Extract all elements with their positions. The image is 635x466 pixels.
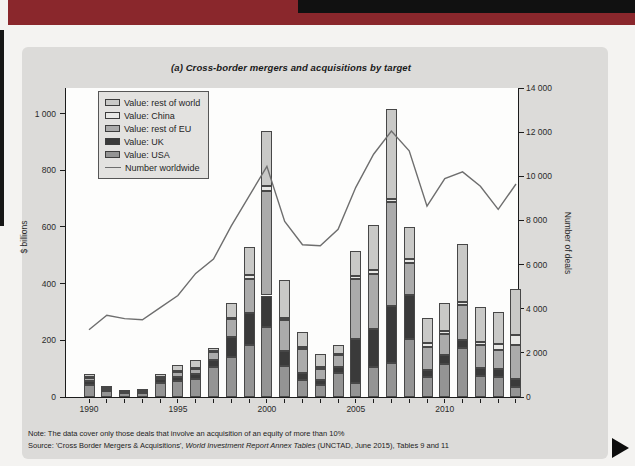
source-italic-title: World Investment Report Annex Tables: [186, 441, 316, 450]
x-axis-year-label: 2005: [341, 404, 371, 414]
x-axis-tick: [142, 399, 143, 403]
legend-label: Value: China: [124, 111, 175, 121]
legend-swatch-value-rest-of-world: [105, 99, 120, 106]
x-axis-year-label: 1990: [74, 404, 104, 414]
source-suffix: (UNCTAD, June 2015), Tables 9 and 11: [315, 441, 448, 450]
legend-label: Value: UK: [124, 137, 164, 147]
x-axis-year-label: 2000: [252, 404, 282, 414]
x-axis-tick: [284, 399, 285, 403]
x-axis-tick: [480, 399, 481, 403]
left-axis-tick-label: 1 000: [18, 109, 56, 119]
right-axis-tick-label: 12 000: [526, 127, 552, 137]
left-axis-tick-label: 800: [18, 165, 56, 175]
legend-label: Value: USA: [124, 150, 170, 160]
left-axis-tick-label: 400: [18, 279, 56, 289]
scanned-book-page: (a) Cross-border mergers and acquisition…: [0, 0, 635, 466]
legend-label: Number worldwide: [125, 163, 200, 173]
left-axis-tick-label: 0: [18, 392, 56, 402]
x-axis-year-label: 1995: [163, 404, 193, 414]
x-axis-tick: [302, 399, 303, 403]
right-axis-tick: [519, 88, 524, 89]
x-axis-tick: [249, 399, 250, 403]
x-axis-tick: [160, 399, 161, 403]
figure-title: (a) Cross-border mergers and acquisition…: [65, 62, 517, 73]
right-axis-tick-label: 0: [526, 392, 531, 402]
right-axis-tick-label: 4 000: [526, 304, 547, 314]
legend-swatch-value-usa: [105, 151, 120, 158]
x-axis-tick: [266, 399, 267, 403]
legend-item: Number worldwide: [105, 161, 200, 174]
legend-swatch-value-uk: [105, 138, 120, 145]
x-axis-tick: [177, 399, 178, 403]
right-axis-tick: [519, 264, 524, 265]
note-text: Note: The data cover only those deals th…: [28, 429, 344, 438]
left-axis-tick-label: 200: [18, 335, 56, 345]
x-axis-tick: [195, 399, 196, 403]
x-axis-year-label: 2010: [430, 404, 460, 414]
x-axis-tick: [213, 399, 214, 403]
x-axis-tick: [320, 399, 321, 403]
x-axis-tick: [106, 399, 107, 403]
legend-item: Value: China: [105, 109, 200, 122]
x-axis-tick: [124, 399, 125, 403]
legend-swatch-value-rest-of-eu: [105, 125, 120, 132]
x-axis-tick: [89, 399, 90, 403]
x-axis-tick: [427, 399, 428, 403]
x-axis-tick: [498, 399, 499, 403]
top-black-strip: [298, 0, 635, 13]
right-axis-tick: [519, 220, 524, 221]
x-axis-tick: [355, 399, 356, 403]
legend-item: Value: rest of EU: [105, 122, 200, 135]
x-axis-tick: [444, 399, 445, 403]
x-axis-tick: [338, 399, 339, 403]
right-axis-tick: [519, 132, 524, 133]
legend-item: Value: rest of world: [105, 96, 200, 109]
legend-item: Value: UK: [105, 135, 200, 148]
legend-line-swatch: [105, 167, 121, 169]
page-edge-left: [0, 30, 4, 226]
x-axis-tick: [231, 399, 232, 403]
legend-item: Value: USA: [105, 148, 200, 161]
x-axis-tick: [409, 399, 410, 403]
right-axis-tick-label: 10 000: [526, 171, 552, 181]
x-axis-tick: [373, 399, 374, 403]
source-text: Source: 'Cross Border Mergers & Acquisit…: [28, 441, 449, 450]
right-axis-tick-label: 6 000: [526, 260, 547, 270]
y-axis-label-right: Number of deals: [563, 212, 573, 274]
x-axis-tick: [391, 399, 392, 403]
page-corner-arrow: [612, 438, 629, 458]
legend-label: Value: rest of EU: [124, 124, 191, 134]
legend-swatch-value-china: [105, 112, 120, 119]
right-axis-tick-label: 8 000: [526, 215, 547, 225]
x-axis-tick: [515, 399, 516, 403]
x-axis-tick: [462, 399, 463, 403]
right-axis-tick: [519, 176, 524, 177]
right-axis-tick-label: 14 000: [526, 83, 552, 93]
left-axis-tick-label: 600: [18, 222, 56, 232]
legend-label: Value: rest of world: [124, 98, 200, 108]
source-prefix: Source: 'Cross Border Mergers & Acquisit…: [28, 441, 186, 450]
right-axis-tick-label: 2 000: [526, 348, 547, 358]
chart-legend: Value: rest of worldValue: ChinaValue: r…: [98, 91, 209, 179]
